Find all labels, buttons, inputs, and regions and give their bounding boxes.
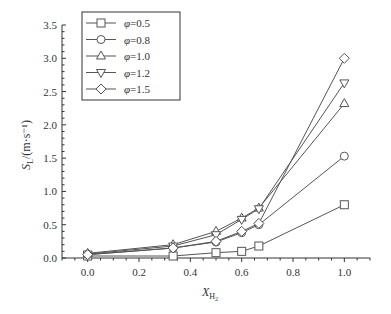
legend-label: φ=1.5 xyxy=(124,83,151,95)
y-axis-title: SL/(m·s⁻¹) xyxy=(19,120,35,170)
legend-label: φ=1.0 xyxy=(124,50,151,62)
y-tick-label: 2.0 xyxy=(43,119,57,131)
square-marker xyxy=(340,201,348,209)
y-tick-label: 2.5 xyxy=(43,86,57,98)
x-tick-label: 0.0 xyxy=(81,266,95,278)
circle-marker xyxy=(97,36,105,44)
x-tick-label: 0.6 xyxy=(235,266,249,278)
circle-marker xyxy=(340,152,348,160)
x-tick-label: 1.0 xyxy=(337,266,351,278)
legend-label: φ=0.8 xyxy=(124,34,151,46)
series-triangle-down xyxy=(83,80,349,259)
square-marker xyxy=(255,242,263,250)
y-tick-label: 3.0 xyxy=(43,52,57,64)
square-marker xyxy=(238,247,246,255)
x-tick-label: 0.2 xyxy=(132,266,146,278)
square-marker xyxy=(97,19,105,27)
legend-label: φ=1.2 xyxy=(124,67,150,79)
y-tick-label: 1.0 xyxy=(43,185,57,197)
diamond-marker xyxy=(211,236,221,246)
triangle-up-marker xyxy=(340,99,349,107)
y-tick-label: 3.5 xyxy=(43,19,57,31)
y-tick-label: 0.5 xyxy=(43,219,57,231)
y-tick-label: 1.5 xyxy=(43,152,57,164)
x-tick-label: 0.4 xyxy=(183,266,197,278)
legend-label: φ=0.5 xyxy=(124,17,151,29)
square-marker xyxy=(212,249,220,257)
x-axis-title: XH2 xyxy=(201,285,218,302)
x-tick-label: 0.8 xyxy=(286,266,300,278)
line-chart: 0.00.20.40.60.81.00.00.51.01.52.02.53.03… xyxy=(0,0,391,314)
y-tick-label: 0.0 xyxy=(43,252,57,264)
diamond-marker xyxy=(339,53,349,63)
legend: φ=0.5φ=0.8φ=1.0φ=1.2φ=1.5 xyxy=(82,12,180,100)
